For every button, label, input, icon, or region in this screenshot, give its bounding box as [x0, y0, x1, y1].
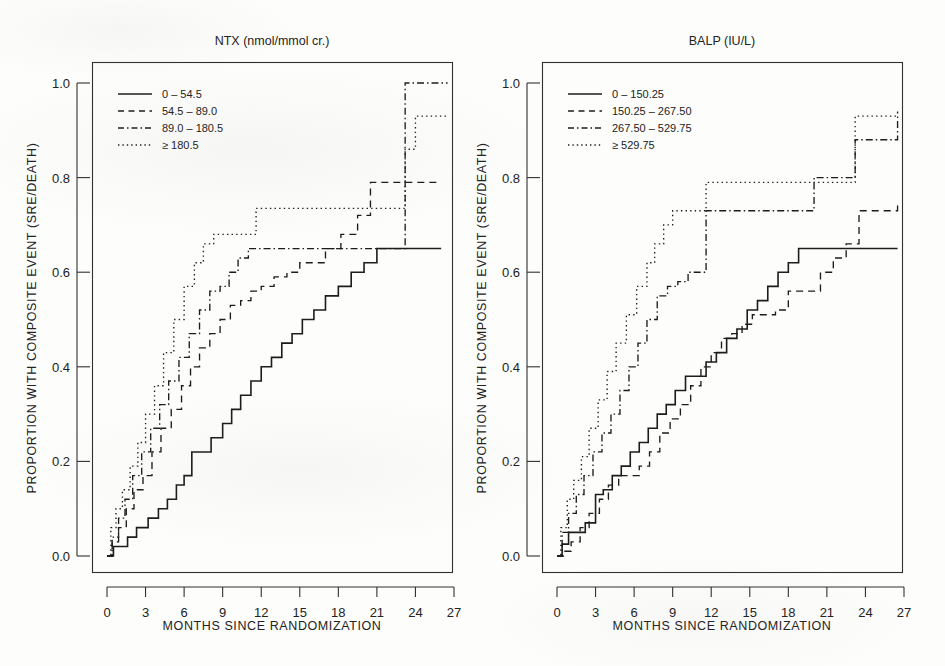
survival-curve-3	[107, 83, 448, 556]
panel-left-x-ticks	[107, 587, 454, 597]
x-tick-label: 12	[704, 605, 718, 620]
legend-label-3: 89.0 – 180.5	[162, 122, 223, 134]
x-tick-label: 21	[820, 605, 834, 620]
y-tick-label: 0.6	[52, 265, 70, 280]
panel-left-x-axis-title: MONTHS SINCE RANDOMIZATION	[163, 619, 382, 633]
y-tick-label: 0.8	[52, 171, 70, 186]
y-tick-label: 0.0	[502, 549, 520, 564]
survival-curve-2	[557, 201, 898, 556]
panel-right-title: BALP (IU/L)	[689, 34, 755, 48]
panel-right-y-ticklabels: 0.00.20.40.60.81.0	[502, 76, 520, 564]
y-tick-label: 0.2	[502, 454, 520, 469]
survival-curve-2	[107, 182, 441, 556]
y-tick-label: 0.0	[52, 549, 70, 564]
panel-right-x-ticks	[557, 587, 904, 597]
y-tick-label: 1.0	[502, 76, 520, 91]
panel-left-legend: 0 – 54.554.5 – 89.089.0 – 180.5≥ 180.5	[118, 88, 223, 151]
figure-root: NTX (nmol/mmol cr.) 0.00.20.40.60.81.0 0…	[0, 0, 945, 666]
panel-right-legend: 0 – 150.25150.25 – 267.50267.50 – 529.75…	[568, 88, 692, 151]
panel-right-x-axis: 0369121518212427	[553, 587, 911, 620]
panel-right-balp: BALP (IU/L) 0.00.20.40.60.81.0 036912151…	[475, 34, 911, 633]
x-tick-label: 21	[370, 605, 384, 620]
panel-left-y-axis: 0.00.20.40.60.81.0	[52, 76, 90, 564]
panel-left-y-ticks	[77, 83, 90, 556]
legend-label-4: ≥ 529.75	[612, 139, 655, 151]
x-tick-label: 0	[553, 605, 560, 620]
panel-left-plot-frame	[93, 63, 453, 573]
survival-curve-1	[107, 249, 441, 556]
x-tick-label: 15	[293, 605, 307, 620]
x-tick-label: 24	[858, 605, 872, 620]
y-tick-label: 0.2	[52, 454, 70, 469]
panel-left-title: NTX (nmol/mmol cr.)	[215, 34, 330, 48]
panel-left-curves	[107, 83, 448, 556]
y-tick-label: 1.0	[52, 76, 70, 91]
panel-right-x-axis-title: MONTHS SINCE RANDOMIZATION	[613, 619, 832, 633]
panel-right-x-ticklabels: 0369121518212427	[553, 605, 911, 620]
x-tick-label: 24	[408, 605, 422, 620]
panel-left-y-ticklabels: 0.00.20.40.60.81.0	[52, 76, 70, 564]
panel-right-y-axis-title: PROPORTION WITH COMPOSITE EVENT (SRE/DEA…	[475, 143, 489, 494]
x-tick-label: 15	[743, 605, 757, 620]
legend-label-3: 267.50 – 529.75	[612, 122, 692, 134]
panel-left-x-axis: 0369121518212427	[103, 587, 461, 620]
legend-label-2: 54.5 – 89.0	[162, 105, 217, 117]
x-tick-label: 18	[781, 605, 795, 620]
legend-label-2: 150.25 – 267.50	[612, 105, 692, 117]
survival-curve-1	[557, 249, 898, 556]
kaplan-meier-figure: NTX (nmol/mmol cr.) 0.00.20.40.60.81.0 0…	[0, 0, 945, 666]
legend-label-1: 0 – 54.5	[162, 88, 202, 100]
x-tick-label: 12	[254, 605, 268, 620]
panel-left-x-ticklabels: 0369121518212427	[103, 605, 461, 620]
legend-label-4: ≥ 180.5	[162, 139, 199, 151]
y-tick-label: 0.6	[502, 265, 520, 280]
x-tick-label: 3	[592, 605, 599, 620]
y-tick-label: 0.4	[52, 360, 70, 375]
x-tick-label: 27	[897, 605, 911, 620]
x-tick-label: 9	[219, 605, 226, 620]
panel-right-y-axis: 0.00.20.40.60.81.0	[502, 76, 540, 564]
x-tick-label: 9	[669, 605, 676, 620]
x-tick-label: 27	[447, 605, 461, 620]
x-tick-label: 3	[142, 605, 149, 620]
x-tick-label: 6	[630, 605, 637, 620]
panel-left-ntx: NTX (nmol/mmol cr.) 0.00.20.40.60.81.0 0…	[25, 34, 461, 633]
y-tick-label: 0.4	[502, 360, 520, 375]
legend-label-1: 0 – 150.25	[612, 88, 664, 100]
panel-left-y-axis-title: PROPORTION WITH COMPOSITE EVENT (SRE/DEA…	[25, 143, 39, 494]
x-tick-label: 0	[103, 605, 110, 620]
panel-right-plot-frame	[543, 63, 903, 573]
x-tick-label: 18	[331, 605, 345, 620]
panel-right-y-ticks	[527, 83, 540, 556]
x-tick-label: 6	[180, 605, 187, 620]
panel-right-curves	[557, 111, 898, 556]
y-tick-label: 0.8	[502, 171, 520, 186]
